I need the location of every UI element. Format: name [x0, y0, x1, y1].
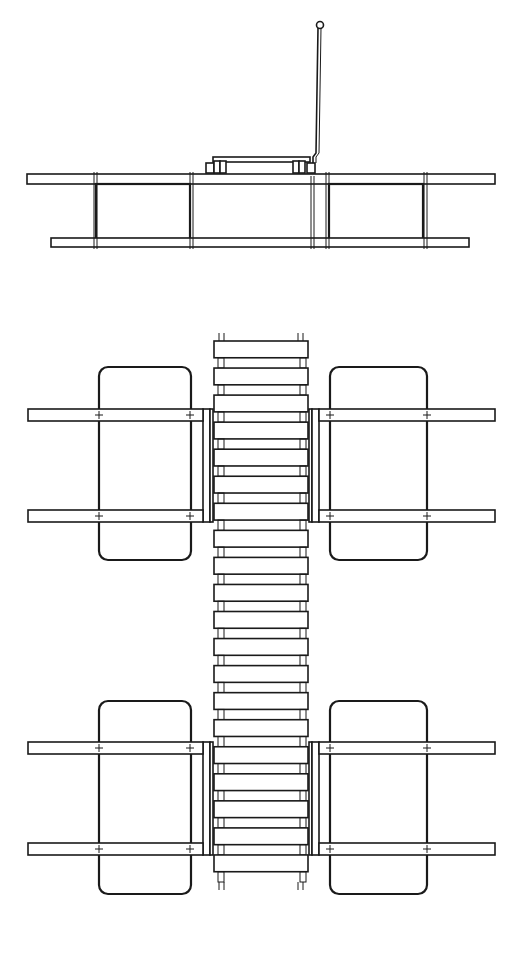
- walkway-plank: [214, 720, 308, 737]
- walkway-plank: [214, 368, 308, 385]
- pontoon-top-right: [330, 367, 427, 560]
- bottom-beam: [51, 238, 469, 247]
- dock-drawing: [0, 0, 526, 961]
- pontoon-bottom-left: [99, 701, 191, 894]
- walkway: [214, 333, 308, 890]
- walkway-plank: [214, 639, 308, 656]
- walkway-plank: [214, 395, 308, 412]
- walkway-plank: [214, 666, 308, 683]
- walkway-plank: [214, 422, 308, 439]
- walkway-plank: [214, 693, 308, 710]
- walkway-plank: [214, 476, 308, 493]
- pontoon-top-left: [99, 367, 191, 560]
- walkway-plank: [214, 530, 308, 547]
- walkway-plank: [214, 557, 308, 574]
- walkway-plank: [214, 584, 308, 601]
- mooring-pole: [313, 22, 324, 164]
- walkway-plank: [214, 801, 308, 818]
- side-elevation: [27, 22, 495, 250]
- pontoon-bottom-right: [330, 701, 427, 894]
- walkway-plank: [214, 774, 308, 791]
- walkway-plank: [214, 341, 308, 358]
- plan-view: [28, 333, 495, 894]
- deck-housing: [206, 157, 315, 173]
- walkway-plank: [214, 612, 308, 629]
- walkway-plank: [214, 855, 308, 872]
- walkway-plank: [214, 828, 308, 845]
- pontoon-right: [329, 184, 423, 239]
- pontoon-left: [96, 184, 190, 239]
- walkway-plank: [214, 747, 308, 764]
- walkway-plank: [214, 503, 308, 520]
- walkway-plank: [214, 449, 308, 466]
